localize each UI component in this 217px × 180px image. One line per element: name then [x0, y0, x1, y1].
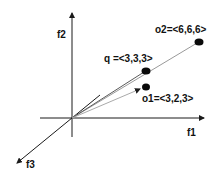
axis-label-f3: f3 [26, 159, 35, 170]
vector-o1 [72, 89, 140, 118]
point-q [142, 68, 151, 75]
vector-space-diagram: o2=<6,6,6> q =<3,3,3> o1=<3,2,3> f1 f2 f… [0, 0, 217, 180]
vector-q [72, 72, 144, 118]
f3-axis [17, 95, 100, 163]
point-o1 [142, 84, 150, 91]
axis-label-f1: f1 [187, 127, 196, 138]
point-label-o1: o1=<3,2,3> [142, 93, 194, 104]
point-label-o2: o2=<6,6,6> [155, 24, 207, 35]
point-o2 [195, 39, 204, 46]
point-label-q: q =<3,3,3> [104, 53, 153, 64]
axis-label-f2: f2 [57, 29, 66, 40]
